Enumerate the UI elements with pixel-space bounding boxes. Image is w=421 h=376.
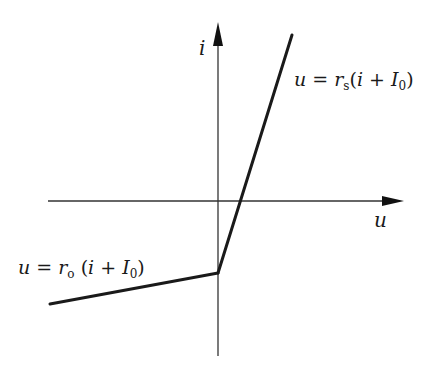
u-axis-arrow-icon <box>382 196 404 206</box>
i-axis-arrow-icon <box>213 22 223 46</box>
i-axis-label: i <box>199 38 205 58</box>
u-axis-label: u <box>374 210 387 230</box>
upper-segment-line <box>218 35 292 273</box>
characteristic-diagram <box>0 0 421 376</box>
upper-segment-equation: u = rs(i + I0) <box>294 70 414 92</box>
lower-segment-equation: u = ro (i + I0) <box>18 258 145 280</box>
